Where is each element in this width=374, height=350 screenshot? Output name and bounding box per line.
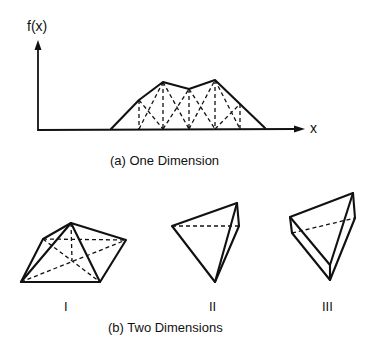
- one-dimension-panel: f(x) x (a) One Dimension: [27, 18, 317, 168]
- caption-two-dimensions: (b) Two Dimensions: [108, 320, 223, 335]
- x-axis-label: x: [310, 120, 317, 136]
- label-element-i: I: [64, 299, 68, 314]
- caption-one-dimension: (a) One Dimension: [110, 153, 219, 168]
- element-i-pyramid: I: [21, 223, 126, 314]
- element-iii-prism: III: [290, 193, 355, 314]
- y-axis-arrow-icon: [35, 40, 42, 50]
- piecewise-linear-function: [111, 80, 265, 129]
- label-element-ii: II: [209, 299, 216, 314]
- x-axis-arrow-icon: [294, 126, 305, 133]
- element-ii-tetrahedron: II: [172, 203, 239, 314]
- label-element-iii: III: [322, 299, 333, 314]
- finite-element-basis-diagram: f(x) x (a) One Dimension: [0, 0, 374, 350]
- two-dimensions-panel: I II III (b) Two Dimensions: [21, 193, 355, 335]
- x-axis: [38, 129, 296, 130]
- y-axis-label: f(x): [27, 18, 47, 34]
